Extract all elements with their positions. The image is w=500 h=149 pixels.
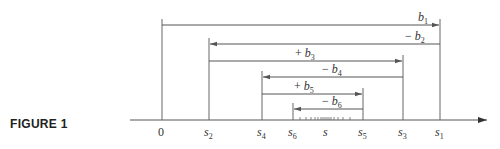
point-label-s1: s1: [435, 125, 444, 141]
label-b1: b1: [418, 10, 428, 26]
point-label-s6: s6: [288, 125, 297, 141]
label-b5: + b5: [294, 79, 314, 95]
alternating-series-diagram: b1 − b2 + b3 − b4 + b5 − b6 0 s2 s4 s6 s…: [0, 0, 500, 149]
point-label-s2: s2: [204, 125, 213, 141]
label-b2: − b2: [405, 29, 425, 45]
point-label-s: s: [323, 125, 328, 139]
label-b3: + b3: [295, 46, 315, 62]
point-label-0: 0: [158, 125, 164, 139]
point-label-s4: s4: [257, 125, 266, 141]
point-label-s5: s5: [358, 125, 367, 141]
label-b4: − b4: [322, 62, 342, 78]
label-b6: − b6: [322, 94, 342, 110]
vertical-guides: [162, 19, 440, 120]
point-label-s3: s3: [398, 125, 407, 141]
partial-sum-arrows: [162, 25, 440, 109]
axis-point-labels: 0 s2 s4 s6 s s5 s3 s1: [158, 125, 444, 141]
